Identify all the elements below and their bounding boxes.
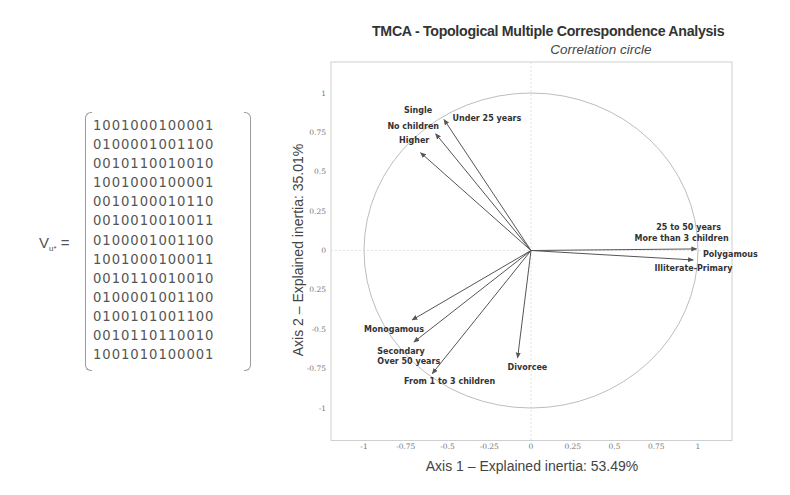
x-tick-label: -1 bbox=[360, 442, 367, 451]
x-tick-label: -0.25 bbox=[480, 442, 499, 451]
x-tick-label: -0.75 bbox=[396, 442, 415, 451]
y-tick-label: 0.25 bbox=[309, 207, 326, 216]
vector-arrow bbox=[531, 251, 693, 260]
vector-label: 25 to 50 years bbox=[656, 223, 721, 232]
vector-label: Polygamous bbox=[703, 250, 758, 259]
vector-label: Higher bbox=[399, 136, 429, 145]
y-tick-label: 0.75 bbox=[309, 128, 326, 137]
vector-label: More than 3 children bbox=[635, 234, 729, 243]
x-axis-ticks: -1-0.75-0.5-0.2500.250.50.751 bbox=[360, 442, 700, 451]
y-tick-label: -1 bbox=[319, 404, 326, 413]
vector-label: No children bbox=[387, 122, 439, 131]
y-tick-label: -0.5 bbox=[312, 325, 327, 334]
vector-arrow bbox=[432, 251, 531, 374]
y-tick-label: -0.75 bbox=[307, 364, 326, 373]
vector-arrow bbox=[436, 134, 531, 251]
x-tick-label: 1 bbox=[696, 442, 701, 451]
vector-arrow bbox=[414, 251, 531, 342]
vector-label: Over 50 years bbox=[377, 357, 440, 366]
y-axis-title: Axis 2 – Explained inertia: 35.01% bbox=[290, 144, 306, 356]
y-tick-label: 0.5 bbox=[314, 167, 326, 176]
vector-label: Single bbox=[404, 106, 433, 115]
x-tick-label: 0 bbox=[529, 442, 534, 451]
vector-arrow bbox=[412, 251, 531, 320]
variable-labels: SingleUnder 25 yearsNo childrenHigher25 … bbox=[364, 106, 758, 386]
x-tick-label: 0.75 bbox=[648, 442, 665, 451]
vector-label: Secondary bbox=[377, 347, 425, 356]
vector-label: Under 25 years bbox=[453, 114, 522, 123]
zero-axes bbox=[331, 62, 732, 441]
y-axis-ticks: 10.750.50.2500.25-0.5-0.75-1 bbox=[307, 89, 326, 413]
x-tick-label: 0.5 bbox=[609, 442, 621, 451]
y-tick-label: 0 bbox=[321, 246, 326, 255]
x-axis-title: Axis 1 – Explained inertia: 53.49% bbox=[426, 458, 638, 474]
y-tick-label: 0.25 bbox=[309, 285, 326, 294]
vector-arrow bbox=[518, 251, 531, 358]
vector-label: Illiterate-Primary bbox=[655, 264, 734, 273]
correlation-circle-chart: -1-0.75-0.5-0.2500.250.50.751 10.750.50.… bbox=[0, 0, 790, 495]
x-tick-label: -0.5 bbox=[440, 442, 455, 451]
x-tick-label: 0.25 bbox=[564, 442, 581, 451]
vector-label: From 1 to 3 children bbox=[404, 377, 495, 386]
variable-vectors bbox=[412, 120, 696, 374]
vector-label: Divorcee bbox=[508, 363, 548, 372]
vector-label: Monogamous bbox=[364, 325, 424, 334]
y-tick-label: 1 bbox=[321, 89, 326, 98]
